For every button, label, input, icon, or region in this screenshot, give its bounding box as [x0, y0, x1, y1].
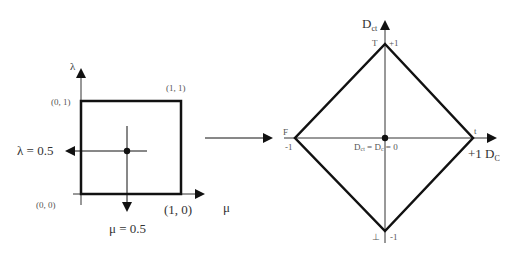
bottom-vertex-value: -1 — [390, 232, 398, 242]
left-vertex-value: -1 — [285, 142, 293, 152]
top-vertex-value: +1 — [389, 38, 399, 48]
right-vertex-symbol: t — [474, 126, 477, 136]
lambda-half-label: λ = 0.5 — [17, 143, 53, 158]
corner-label-0-0: (0, 0) — [36, 200, 56, 210]
corner-label-0-1: (0, 1) — [51, 97, 71, 107]
mu-half-label: μ = 0.5 — [109, 221, 146, 236]
center-point — [124, 148, 130, 154]
diagram-canvas: λ μ (0, 0) (0, 1) (1, 1) (1, 0) λ = 0.5 … — [0, 0, 528, 254]
corner-label-1-0: (1, 0) — [164, 202, 192, 217]
top-vertex-symbol: T — [372, 38, 378, 48]
mu-axis-label: μ — [223, 200, 230, 215]
corner-label-1-1: (1, 1) — [166, 83, 186, 93]
dct-axis-label: Dct — [362, 16, 378, 33]
right-diamond-panel: Dct DC T +1 ⊥ -1 F -1 t +1 Dct = Dc = 0 — [283, 16, 500, 243]
unit-square — [81, 101, 181, 194]
origin-label: Dct = Dc = 0 — [354, 142, 398, 152]
left-unit-square-panel: λ μ (0, 0) (0, 1) (1, 1) (1, 0) λ = 0.5 … — [17, 60, 230, 236]
dc-axis-label: DC — [485, 146, 500, 163]
lambda-axis-label: λ — [70, 60, 76, 72]
bottom-vertex-symbol: ⊥ — [372, 232, 380, 242]
origin-point — [382, 135, 388, 141]
right-vertex-value: +1 — [468, 146, 482, 161]
left-vertex-symbol: F — [283, 127, 288, 137]
